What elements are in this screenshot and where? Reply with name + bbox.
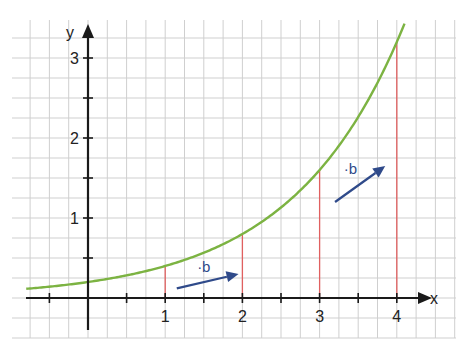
exponential-chart: 1234123 ·b·b x y	[0, 0, 458, 345]
y-tick-label: 3	[70, 50, 79, 67]
y-axis-arrow-icon	[82, 24, 94, 38]
y-tick-label: 2	[70, 130, 79, 147]
y-tick-label: 1	[70, 210, 79, 227]
arrow-head-icon	[372, 166, 385, 177]
factor-label: ·b	[344, 160, 357, 177]
x-tick-label: 4	[392, 308, 401, 325]
grid	[12, 20, 456, 338]
tick-labels: 1234123	[70, 50, 401, 325]
x-axis-label: x	[430, 290, 438, 307]
y-axis-label: y	[66, 24, 74, 41]
arrow-head-icon	[226, 271, 239, 282]
x-tick-label: 1	[161, 308, 170, 325]
exponential-curve	[26, 24, 404, 289]
factor-label: ·b	[197, 258, 210, 275]
x-tick-label: 2	[238, 308, 247, 325]
x-tick-label: 3	[315, 308, 324, 325]
